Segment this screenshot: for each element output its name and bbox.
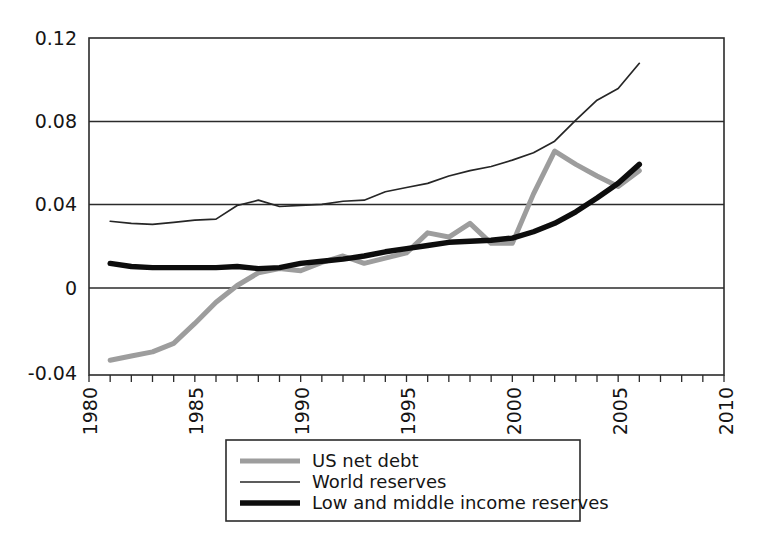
series-line-world-reserves [110,63,639,224]
x-tick-label: 2000 [503,387,525,435]
y-tick-label: 0 [65,277,77,299]
y-tick-label: 0.12 [35,27,77,49]
chart-figure: 0.12 0.08 0.04 0 -0.04 1980 1985 1990 19… [0,0,758,553]
series-line-low-and-middle-income-reserves [110,164,639,268]
legend-label-us-net-debt: US net debt [312,450,419,471]
y-tick-label: -0.04 [28,362,77,384]
x-tick-label: 1995 [397,387,419,435]
x-axis-tick-labels: 1980 1985 1990 1995 2000 2005 2010 [79,387,737,435]
y-tick-label: 0.08 [35,110,77,132]
y-axis-tick-labels: 0.12 0.08 0.04 0 -0.04 [28,27,77,384]
x-tick-label: 1985 [185,387,207,435]
x-tick-label: 2010 [715,387,737,435]
data-series-group [110,63,639,360]
x-tick-label: 1990 [291,387,313,435]
legend-label-world-reserves: World reserves [312,471,446,492]
plot-frame [89,38,724,375]
legend-label-low-and-middle-income-reserves: Low and middle income reserves [312,492,609,513]
gridlines [89,122,724,289]
x-axis-ticks [89,375,724,382]
line-chart: 0.12 0.08 0.04 0 -0.04 1980 1985 1990 19… [0,0,758,553]
chart-legend: US net debt World reserves Low and middl… [226,440,609,521]
x-tick-label: 1980 [79,387,101,435]
y-tick-label: 0.04 [35,193,77,215]
x-tick-label: 2005 [609,387,631,435]
